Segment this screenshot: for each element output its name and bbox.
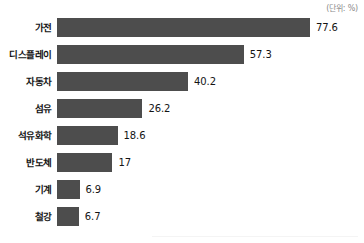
bar <box>57 18 310 37</box>
baseline-rule <box>152 236 358 237</box>
bar <box>57 126 118 145</box>
table-row: 가전 77.6 <box>0 18 364 37</box>
category-label: 기계 <box>0 180 52 199</box>
category-label: 디스플레이 <box>0 45 52 64</box>
value-label: 77.6 <box>316 18 338 37</box>
bar <box>57 72 188 91</box>
value-label: 17 <box>118 153 131 172</box>
bar <box>57 99 142 118</box>
bar <box>57 207 79 226</box>
unit-note: (단위: %) <box>326 2 358 13</box>
bar <box>57 180 80 199</box>
bar <box>57 153 112 172</box>
bar <box>57 45 244 64</box>
bar-track: 6.7 <box>57 207 364 226</box>
category-label: 섬유 <box>0 99 52 118</box>
category-label: 자동차 <box>0 72 52 91</box>
value-label: 40.2 <box>194 72 216 91</box>
value-label: 26.2 <box>148 99 170 118</box>
bar-track: 57.3 <box>57 45 364 64</box>
table-row: 디스플레이 57.3 <box>0 45 364 64</box>
table-row: 자동차 40.2 <box>0 72 364 91</box>
category-label: 철강 <box>0 207 52 226</box>
value-label: 6.7 <box>85 207 101 226</box>
table-row: 철강 6.7 <box>0 207 364 226</box>
table-row: 기계 6.9 <box>0 180 364 199</box>
bar-track: 40.2 <box>57 72 364 91</box>
table-row: 석유화학 18.6 <box>0 126 364 145</box>
table-row: 섬유 26.2 <box>0 99 364 118</box>
bar-track: 17 <box>57 153 364 172</box>
category-label: 가전 <box>0 18 52 37</box>
category-label: 반도체 <box>0 153 52 172</box>
value-label: 57.3 <box>250 45 272 64</box>
bar-track: 77.6 <box>57 18 364 37</box>
bar-track: 26.2 <box>57 99 364 118</box>
category-label: 석유화학 <box>0 126 52 145</box>
bar-track: 6.9 <box>57 180 364 199</box>
value-label: 18.6 <box>124 126 146 145</box>
plot-area: 가전 77.6 디스플레이 57.3 자동차 40.2 섬유 2 <box>0 18 364 235</box>
value-label: 6.9 <box>86 180 102 199</box>
bar-chart: (단위: %) 가전 77.6 디스플레이 57.3 자동차 40.2 섬유 <box>0 0 364 243</box>
table-row: 반도체 17 <box>0 153 364 172</box>
bar-track: 18.6 <box>57 126 364 145</box>
